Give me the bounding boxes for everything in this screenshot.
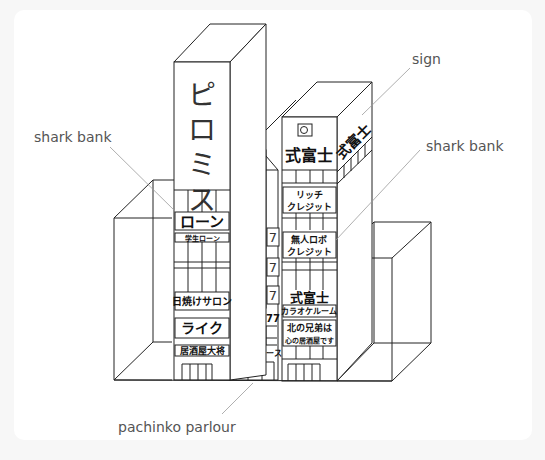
svg-text:式富士: 式富士 — [290, 290, 329, 305]
tanning-salon-sign: 日焼けサロン — [172, 295, 232, 307]
left-tower: ピ ロ ミ ス ローン 学生ローン 日焼けサロン ライク 居酒屋大将 — [172, 24, 266, 380]
svg-text:無人ロボ: 無人ロボ — [291, 234, 327, 245]
izakaya-sign: 居酒屋大将 — [180, 345, 225, 356]
label-sign: sign — [412, 51, 441, 67]
piromis-char-3: ミ — [188, 149, 216, 182]
svg-text:リッチ: リッチ — [296, 190, 323, 200]
student-loan-sign: 学生ローン — [185, 234, 220, 243]
svg-text:7: 7 — [269, 230, 277, 245]
svg-text:カラオケルーム: カラオケルーム — [281, 307, 337, 316]
svg-text:7: 7 — [269, 260, 277, 275]
leader-pachinko-parlour — [222, 383, 253, 414]
svg-text:7: 7 — [269, 288, 277, 303]
svg-text:心の居酒屋です: 心の居酒屋です — [285, 336, 334, 345]
piromis-char-1: ピ — [188, 79, 216, 112]
piromis-char-2: ロ — [188, 114, 216, 147]
label-shark-bank-left: shark bank — [34, 129, 112, 145]
svg-text:クレジット: クレジット — [287, 247, 332, 257]
rooftop-sign-front: 式富士 — [285, 146, 333, 165]
svg-text:クレジット: クレジット — [287, 202, 332, 212]
left-background-building — [114, 180, 176, 380]
label-pachinko-parlour: pachinko parlour — [118, 419, 236, 435]
ground-line — [114, 380, 392, 381]
building-diagram: パ チ ス ロ タ ワ ー 7 7 7 7 7 7 777・777 パチスロピー… — [0, 0, 545, 460]
svg-text:北の兄弟は: 北の兄弟は — [287, 322, 332, 333]
loan-sign: ローン — [180, 213, 224, 231]
right-tower: 式富士 式富士 リッチ クレジット 無人ロボ クレジット 式富士 カラオケ — [281, 82, 374, 381]
label-shark-bank-right: shark bank — [426, 138, 504, 154]
like-sign: ライク — [181, 320, 223, 336]
